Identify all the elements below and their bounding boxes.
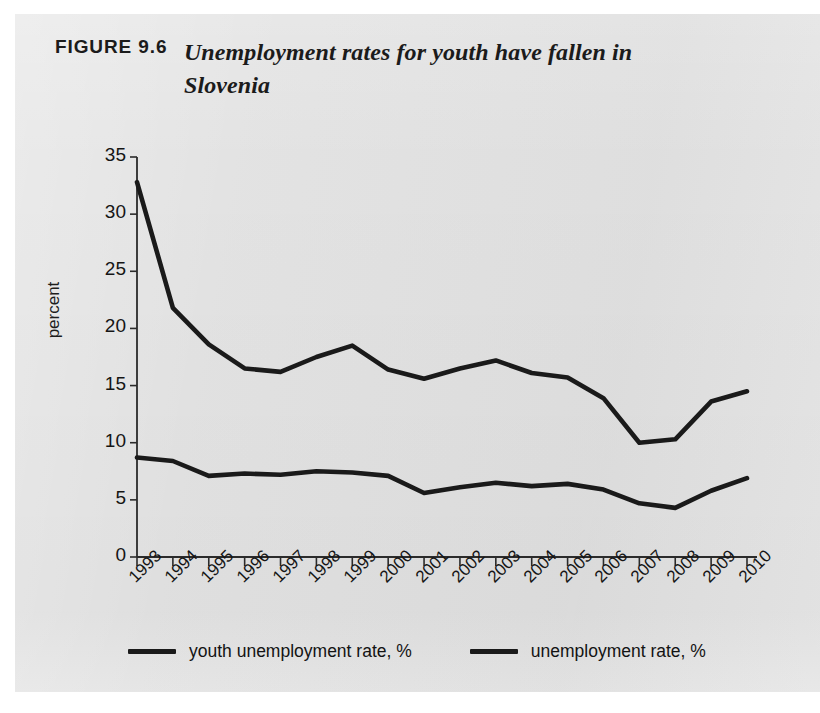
series-line-total	[137, 458, 747, 508]
legend-line-swatch-youth	[128, 649, 176, 654]
y-tick-label: 15	[84, 373, 126, 395]
y-tick-label: 5	[84, 487, 126, 509]
legend-label-youth: youth unemployment rate, %	[189, 641, 412, 662]
plot-area	[0, 0, 820, 713]
chart-legend: youth unemployment rate, % unemployment …	[128, 636, 708, 666]
y-tick-label: 35	[84, 144, 126, 166]
y-tick-label: 30	[84, 201, 126, 223]
line-chart: percent 05101520253035199319941995199619…	[0, 0, 820, 713]
legend-line-swatch-total	[470, 649, 518, 654]
y-tick-label: 0	[84, 544, 126, 566]
series-line-youth	[137, 182, 747, 443]
figure-page: FIGURE 9.6 Unemployment rates for youth …	[0, 0, 820, 713]
legend-item-youth: youth unemployment rate, %	[128, 641, 412, 662]
legend-item-total: unemployment rate, %	[470, 641, 706, 662]
y-tick-label: 10	[84, 430, 126, 452]
legend-label-total: unemployment rate, %	[531, 641, 706, 662]
y-tick-label: 20	[84, 315, 126, 337]
y-tick-label: 25	[84, 258, 126, 280]
